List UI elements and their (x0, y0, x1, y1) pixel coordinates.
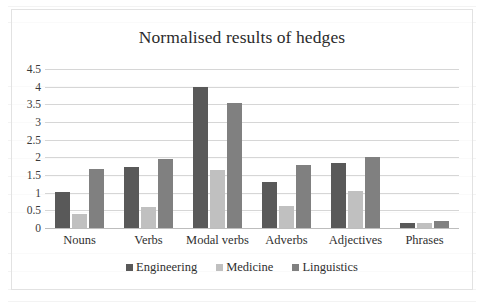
x-axis-tick-label: Adjectives (321, 233, 390, 248)
bar-linguistics-phrases[interactable] (434, 221, 449, 228)
legend-item-engineering[interactable]: Engineering (126, 260, 197, 275)
legend-swatch-icon (216, 264, 223, 271)
y-axis-tick-label: 4.5 (27, 63, 41, 75)
legend-swatch-icon (126, 264, 133, 271)
chart-legend: EngineeringMedicineLinguistics (12, 260, 472, 275)
bar-linguistics-adverbs[interactable] (296, 165, 311, 228)
bar-engineering-phrases[interactable] (400, 223, 415, 228)
x-axis-tick-label: Phrases (390, 233, 459, 248)
y-axis-tick-label: 2 (35, 151, 41, 163)
bar-medicine-verbs[interactable] (141, 207, 156, 228)
y-axis-tick-label: 3 (35, 116, 41, 128)
y-axis-tick-label: 1 (35, 187, 41, 199)
bar-group-phrases (390, 69, 459, 228)
bar-medicine-phrases[interactable] (417, 223, 432, 228)
bar-group-nouns (45, 69, 114, 228)
y-axis: 00.511.522.533.544.5 (12, 69, 41, 228)
y-axis-tick-label: 4 (35, 81, 41, 93)
y-axis-tick-label: 3.5 (27, 98, 41, 110)
bar-chart-figure: Normalised results of hedges 00.511.522.… (11, 9, 473, 290)
bar-linguistics-adjectives[interactable] (365, 157, 380, 228)
gridline (45, 228, 459, 229)
chart-title: Normalised results of hedges (12, 27, 472, 48)
legend-item-linguistics[interactable]: Linguistics (292, 260, 358, 275)
bar-group-adverbs (252, 69, 321, 228)
bar-medicine-modal-verbs[interactable] (210, 170, 225, 228)
bar-linguistics-modal-verbs[interactable] (227, 103, 242, 228)
bar-group-adjectives (321, 69, 390, 228)
x-axis: NounsVerbsModal verbsAdverbsAdjectivesPh… (45, 233, 459, 248)
x-axis-tick-label: Adverbs (252, 233, 321, 248)
bar-linguistics-verbs[interactable] (158, 159, 173, 228)
bar-engineering-adverbs[interactable] (262, 182, 277, 228)
y-axis-tick-label: 0 (35, 222, 41, 234)
legend-swatch-icon (292, 264, 299, 271)
legend-item-label: Medicine (226, 260, 273, 275)
bar-medicine-nouns[interactable] (72, 214, 87, 228)
bar-linguistics-nouns[interactable] (89, 169, 104, 228)
bar-engineering-verbs[interactable] (124, 167, 139, 228)
bar-engineering-nouns[interactable] (55, 192, 70, 228)
y-axis-tick-label: 2.5 (27, 134, 41, 146)
y-axis-tick-label: 1.5 (27, 169, 41, 181)
y-axis-tick-label: 0.5 (27, 204, 41, 216)
bar-engineering-adjectives[interactable] (331, 163, 346, 228)
x-axis-tick-label: Modal verbs (183, 233, 252, 248)
bar-medicine-adverbs[interactable] (279, 206, 294, 228)
x-axis-tick-label: Nouns (45, 233, 114, 248)
bar-group-modal-verbs (183, 69, 252, 228)
plot-area (45, 69, 459, 228)
x-axis-tick-label: Verbs (114, 233, 183, 248)
bar-medicine-adjectives[interactable] (348, 191, 363, 228)
bar-engineering-modal-verbs[interactable] (193, 87, 208, 228)
legend-item-label: Linguistics (302, 260, 358, 275)
bars-layer (45, 69, 459, 228)
legend-item-medicine[interactable]: Medicine (216, 260, 273, 275)
legend-item-label: Engineering (136, 260, 197, 275)
bar-group-verbs (114, 69, 183, 228)
